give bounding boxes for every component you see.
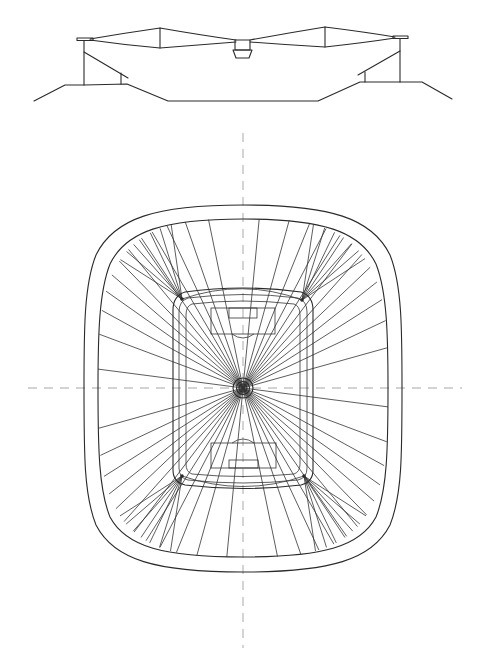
ground-profile (34, 82, 452, 101)
radial-rib (98, 369, 243, 388)
corner-rib (141, 476, 182, 538)
scoreboard (233, 50, 252, 58)
corner-node-br (302, 474, 306, 478)
corner-node-tl (180, 297, 184, 301)
corner-rib (127, 252, 182, 300)
roof-upper-cable (90, 27, 395, 40)
radial-rib (109, 388, 243, 494)
right-stand (358, 51, 400, 75)
corner-rib (134, 244, 182, 299)
radial-rib (134, 388, 243, 532)
corner-rib (304, 476, 327, 547)
radial-rib (243, 244, 352, 388)
corner-node-bl (180, 474, 184, 478)
corner-node-tr (300, 298, 304, 302)
top-penalty-arc (232, 334, 254, 338)
radial-rib (243, 219, 259, 388)
plan-view (28, 133, 462, 648)
corner-rib (302, 228, 325, 300)
roof-hub (235, 40, 250, 50)
radial-rib (243, 388, 367, 515)
stadium-drawing: Stadium section and roof plan (0, 0, 482, 657)
section-elevation (34, 27, 452, 101)
radial-rib (243, 388, 334, 544)
corner-rib (126, 476, 182, 524)
corner-rib (304, 476, 360, 524)
radial-rib (119, 261, 243, 388)
radial-rib (243, 388, 388, 407)
corner-rib (160, 228, 182, 299)
corner-rib (302, 259, 365, 300)
radial-rib (227, 388, 243, 557)
